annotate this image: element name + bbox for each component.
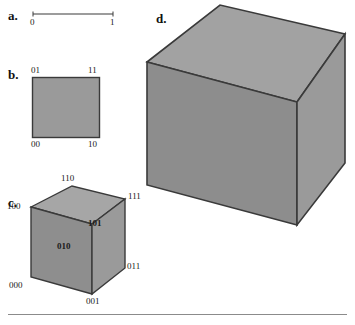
footer-rule (8, 314, 347, 315)
panel-c-label-111: 111 (128, 192, 141, 201)
panel-a-label-0: 0 (30, 18, 35, 27)
square-face (33, 78, 100, 138)
panel-c-label-100: 100 (7, 202, 21, 211)
panel-d-cube (147, 5, 345, 225)
figure-root: a. b. c. d. 0 1 01 11 00 10 110 111 100 … (0, 0, 355, 325)
panel-b-label-top-right: 11 (88, 66, 97, 75)
figure-graphics (0, 0, 355, 325)
panel-c-cube (31, 186, 125, 294)
panel-a-label-1: 1 (110, 18, 115, 27)
panel-letter-d: d. (156, 12, 166, 25)
panel-c-label-110: 110 (61, 174, 74, 183)
panel-b-square (33, 78, 100, 138)
panel-letter-a: a. (8, 9, 18, 22)
panel-c-label-000: 000 (9, 281, 23, 290)
panel-c-label-011: 011 (127, 262, 140, 271)
panel-b-label-bottom-right: 10 (88, 140, 97, 149)
panel-c-label-001: 001 (86, 297, 100, 306)
panel-c-label-101: 101 (88, 219, 102, 228)
panel-b-label-bottom-left: 00 (31, 140, 40, 149)
panel-c-label-010: 010 (57, 242, 71, 251)
panel-letter-b: b. (8, 68, 18, 81)
panel-a-segment (33, 12, 113, 17)
panel-b-label-top-left: 01 (31, 66, 40, 75)
